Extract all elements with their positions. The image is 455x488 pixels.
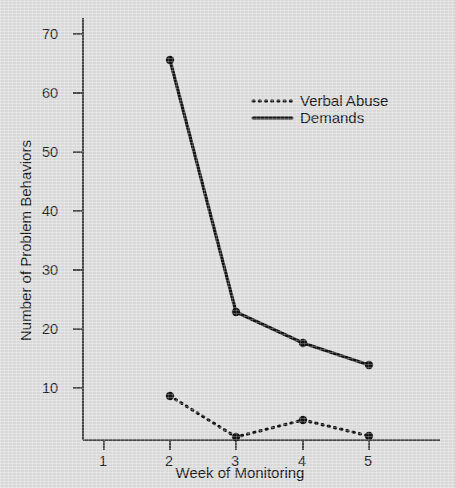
- x-axis-ticks: [104, 440, 369, 450]
- y-tick-label-70: 70: [42, 26, 58, 42]
- y-tick-label-50: 50: [42, 144, 58, 160]
- series-markers-verbal-abuse: [166, 392, 373, 441]
- y-tick-label-40: 40: [42, 203, 58, 219]
- chart-figure: 70 60 50 40 30 20 10 1 2 3 4 5 Number of…: [0, 0, 455, 488]
- y-axis-title: Number of Problem Behaviors: [17, 121, 34, 361]
- x-axis-title: Week of Monitoring: [130, 464, 350, 481]
- y-axis-ticks: [73, 34, 83, 388]
- y-tick-label-30: 30: [42, 262, 58, 278]
- chart-plot-area: [0, 0, 455, 488]
- legend-label-verbal-abuse: Verbal Abuse: [300, 92, 388, 109]
- y-tick-label-60: 60: [42, 85, 58, 101]
- x-tick-label-5: 5: [364, 453, 372, 469]
- x-tick-label-1: 1: [99, 453, 107, 469]
- y-tick-label-10: 10: [42, 380, 58, 396]
- series-line-verbal-abuse: [170, 396, 369, 437]
- y-tick-label-20: 20: [42, 321, 58, 337]
- legend-label-demands: Demands: [300, 109, 364, 126]
